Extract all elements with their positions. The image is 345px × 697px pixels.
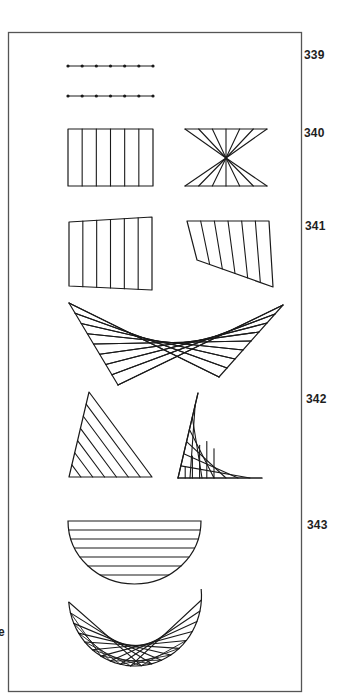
- figure-label-339: 339: [304, 49, 325, 61]
- figure-343-crescent-envelope: [69, 589, 202, 666]
- cropped-text-fragment: e: [0, 626, 5, 638]
- figure-342-parallel-triangle: [69, 392, 152, 477]
- figure-340-hourglass: [185, 129, 267, 186]
- figure-label-340: 340: [304, 127, 325, 139]
- figure-label-341: 341: [305, 220, 326, 232]
- figure-frame: [9, 33, 302, 692]
- figure-canvas: [0, 0, 345, 697]
- figure-340-rectangle-strips: [68, 129, 153, 186]
- figure-341-trapezoid-strips: [69, 217, 152, 290]
- figure-339-dotted-lines: [66, 64, 154, 97]
- figure-label-342: 342: [306, 393, 327, 405]
- figure-label-343: 343: [307, 519, 328, 531]
- figure-342-butterfly-envelope: [69, 303, 283, 385]
- figure-341-skewed-quad-strips: [187, 221, 273, 287]
- diagram-page: 339 340 341 342 343 e: [0, 0, 345, 697]
- figure-343-half-ellipse-chords: [68, 521, 201, 584]
- figure-342-envelope-triangle: [178, 393, 262, 478]
